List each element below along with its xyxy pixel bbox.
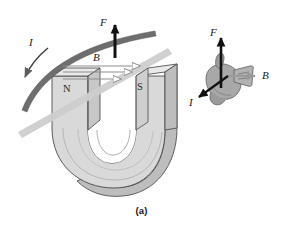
label-south-pole: S — [137, 81, 143, 92]
label-current-main: I — [28, 36, 34, 48]
hand-label-field: B — [262, 69, 269, 81]
current-arrow-curve — [25, 48, 48, 77]
hand-label-force: F — [209, 26, 217, 38]
label-force-main: F — [99, 16, 107, 28]
label-field-main: B — [93, 51, 100, 63]
current-direction-arrow — [25, 48, 48, 77]
label-north-pole: N — [63, 83, 71, 94]
figure-canvas: I B F N S — [0, 0, 283, 232]
hand-label-current: I — [188, 96, 194, 108]
south-arm-outer-side — [165, 64, 177, 130]
physics-figure: I B F N S — [0, 0, 283, 232]
south-arm-inner-side — [136, 68, 148, 130]
figure-caption: (a) — [0, 205, 283, 216]
right-hand-rule-diagram: F B I — [188, 26, 269, 108]
